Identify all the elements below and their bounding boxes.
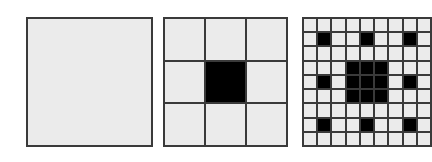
- grid-cell: [347, 119, 359, 131]
- grid-cell: [332, 62, 344, 74]
- removed-cell: [404, 119, 416, 131]
- grid-cell: [332, 90, 344, 102]
- grid-cell: [332, 76, 344, 88]
- grid-cell: [361, 104, 373, 116]
- grid-cell: [304, 33, 316, 45]
- grid-cell: [347, 104, 359, 116]
- grid-cell: [347, 19, 359, 31]
- grid-cell: [332, 119, 344, 131]
- removed-cell: [361, 33, 373, 45]
- grid-cell: [389, 104, 401, 116]
- removed-cell: [375, 62, 387, 74]
- iteration-2-panel: [302, 17, 432, 147]
- grid-cell: [418, 90, 430, 102]
- grid-cell: [304, 19, 316, 31]
- grid-cell: [375, 47, 387, 59]
- grid-cell: [347, 133, 359, 145]
- grid-cell: [206, 104, 245, 145]
- grid-cell: [418, 104, 430, 116]
- grid-cell: [247, 104, 286, 145]
- grid-cell: [361, 47, 373, 59]
- removed-cell: [318, 33, 330, 45]
- grid-cell: [389, 19, 401, 31]
- grid-cell: [418, 47, 430, 59]
- grid-cell: [361, 19, 373, 31]
- grid-cell: [375, 133, 387, 145]
- removed-cell: [347, 62, 359, 74]
- removed-cell: [347, 90, 359, 102]
- removed-cell: [361, 90, 373, 102]
- grid-cell: [389, 119, 401, 131]
- grid-cell: [165, 19, 204, 60]
- grid-cell: [361, 133, 373, 145]
- grid-cell: [418, 76, 430, 88]
- removed-cell: [375, 90, 387, 102]
- removed-cell: [361, 119, 373, 131]
- grid-cell: [347, 33, 359, 45]
- grid-cell: [404, 133, 416, 145]
- grid-cell: [389, 133, 401, 145]
- grid-cell: [165, 62, 204, 103]
- grid-cell: [375, 33, 387, 45]
- grid-cell: [418, 62, 430, 74]
- removed-cell: [404, 76, 416, 88]
- grid-cell: [404, 104, 416, 116]
- grid-cell: [404, 19, 416, 31]
- grid-cell: [404, 90, 416, 102]
- grid-cell: [318, 133, 330, 145]
- removed-cell: [347, 76, 359, 88]
- grid-cell: [247, 62, 286, 103]
- grid-cell: [318, 47, 330, 59]
- grid-cell: [165, 104, 204, 145]
- grid-cell: [304, 47, 316, 59]
- grid-cell: [247, 19, 286, 60]
- grid-cell: [318, 62, 330, 74]
- grid-cell: [375, 104, 387, 116]
- grid-cell: [304, 119, 316, 131]
- grid-cell: [389, 76, 401, 88]
- iteration-1-panel: [163, 17, 288, 147]
- grid-cell: [332, 133, 344, 145]
- grid-cell: [418, 119, 430, 131]
- grid-cell: [304, 76, 316, 88]
- grid-cell: [418, 33, 430, 45]
- grid-cell: [304, 133, 316, 145]
- grid-cell: [404, 62, 416, 74]
- removed-cell: [361, 76, 373, 88]
- grid-cell: [389, 90, 401, 102]
- removed-cell: [361, 62, 373, 74]
- grid-cell: [404, 47, 416, 59]
- grid-cell: [332, 33, 344, 45]
- removed-cell: [404, 33, 416, 45]
- grid-cell: [318, 90, 330, 102]
- grid-cell: [304, 104, 316, 116]
- grid-cell: [318, 19, 330, 31]
- grid-cell: [304, 90, 316, 102]
- grid-cell: [375, 119, 387, 131]
- grid-cell: [304, 62, 316, 74]
- removed-cell: [318, 76, 330, 88]
- iteration-0-panel: [26, 17, 153, 147]
- grid-cell: [389, 62, 401, 74]
- removed-cell: [318, 119, 330, 131]
- grid-cell: [332, 47, 344, 59]
- grid-cell: [389, 47, 401, 59]
- grid-cell: [418, 19, 430, 31]
- grid-cell: [206, 19, 245, 60]
- grid-cell: [332, 104, 344, 116]
- removed-cell: [206, 62, 245, 103]
- grid-cell: [375, 19, 387, 31]
- grid-cell: [389, 33, 401, 45]
- grid-cell: [318, 104, 330, 116]
- grid-cell: [347, 47, 359, 59]
- removed-cell: [375, 76, 387, 88]
- grid-cell: [332, 19, 344, 31]
- grid-cell: [418, 133, 430, 145]
